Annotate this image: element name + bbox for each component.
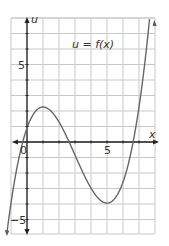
x-tick-label: 0	[20, 144, 27, 157]
function-graph: 055−5 x u u = f(x)	[0, 0, 169, 246]
y-tick-label: 5	[18, 59, 25, 72]
y-axis-label: u	[31, 13, 38, 26]
chart-title: u = f(x)	[72, 38, 114, 51]
x-axis-arrow-left	[12, 140, 18, 145]
x-tick-label: 5	[104, 144, 111, 157]
y-tick-label: −5	[10, 214, 26, 227]
x-axis-label: x	[148, 128, 156, 141]
